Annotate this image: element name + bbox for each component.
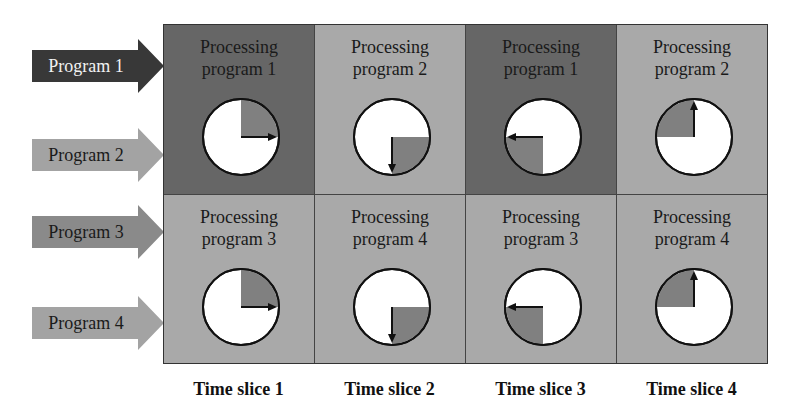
program-2-arrow: Program 2 (30, 128, 164, 182)
time-slice-3-label: Time slice 3 (465, 379, 616, 400)
program-2-label: Program 2 (30, 128, 142, 182)
cell-title: Processing program 2 (315, 36, 465, 80)
time-slice-4-label: Time slice 4 (616, 379, 767, 400)
clock-icon (201, 267, 281, 347)
clock-icon (503, 267, 583, 347)
time-slice-grid: Processing program 1 Processing program … (163, 24, 768, 364)
clock-icon (201, 97, 281, 177)
cell-r1-c1: Processing program 1 (164, 25, 315, 195)
program-3-arrow: Program 3 (30, 205, 164, 259)
cell-title: Processing program 2 (617, 36, 767, 80)
time-slice-2-label: Time slice 2 (314, 379, 465, 400)
program-4-arrow: Program 4 (30, 296, 164, 350)
program-3-label: Program 3 (30, 205, 142, 259)
clock-icon (654, 267, 734, 347)
clock-icon (654, 97, 734, 177)
cell-r2-c3: Processing program 3 (466, 195, 617, 363)
cell-r2-c2: Processing program 4 (315, 195, 466, 363)
cell-r2-c4: Processing program 4 (617, 195, 767, 363)
cell-title: Processing program 3 (466, 206, 616, 250)
cell-title: Processing program 4 (315, 206, 465, 250)
clock-icon (352, 97, 432, 177)
cell-r2-c1: Processing program 3 (164, 195, 315, 363)
cell-r1-c4: Processing program 2 (617, 25, 767, 195)
program-4-label: Program 4 (30, 296, 142, 350)
cell-r1-c3: Processing program 1 (466, 25, 617, 195)
cell-title: Processing program 1 (466, 36, 616, 80)
time-slice-1-label: Time slice 1 (163, 379, 314, 400)
program-1-label: Program 1 (30, 39, 142, 93)
clock-icon (503, 97, 583, 177)
cell-title: Processing program 4 (617, 206, 767, 250)
cell-title: Processing program 3 (164, 206, 314, 250)
cell-r1-c2: Processing program 2 (315, 25, 466, 195)
clock-icon (352, 267, 432, 347)
cell-title: Processing program 1 (164, 36, 314, 80)
program-1-arrow: Program 1 (30, 39, 164, 93)
